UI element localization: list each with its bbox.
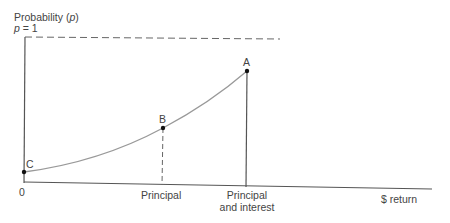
point-c-label: C (26, 158, 34, 170)
point-b-label: B (159, 113, 166, 125)
x-axis (24, 182, 432, 189)
probability-curve (24, 71, 247, 172)
p-equals-1-dashed-line (25, 37, 280, 39)
point-a-label: A (243, 56, 250, 68)
x-tick-principal-and-interest: Principal and interest (216, 189, 278, 213)
principal-dashed-line (162, 128, 163, 185)
origin-label: 0 (19, 186, 25, 198)
x-tick-line2: and interest (216, 201, 278, 213)
y-max-label: p = 1 (14, 22, 38, 34)
principal-and-interest-line (246, 71, 247, 187)
point-b-marker (161, 126, 165, 130)
x-tick-principal: Principal (141, 189, 181, 201)
y-axis (24, 37, 25, 183)
point-c-marker (22, 170, 26, 174)
x-axis-label: $ return (381, 193, 417, 205)
y-axis-label-suffix: ) (75, 11, 79, 23)
y-max-value: = 1 (20, 22, 38, 34)
x-tick-line1: Principal (216, 189, 278, 201)
point-a-marker (245, 69, 249, 73)
